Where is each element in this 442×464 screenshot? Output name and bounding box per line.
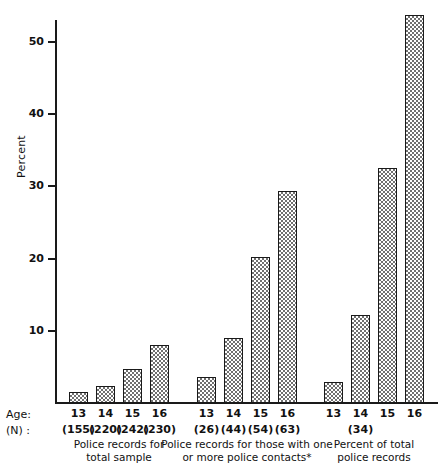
bar-group3-age-16 — [405, 15, 424, 403]
y-tick-label-20: 20 — [18, 253, 44, 264]
n-row-header: (N) : — [6, 424, 30, 437]
group-caption-3: Percent of total police records — [284, 438, 442, 464]
y-tick-30 — [48, 185, 56, 187]
bar-group3-age-13 — [324, 382, 343, 403]
age-label-group1-16: 16 — [143, 407, 177, 420]
y-tick-label-10: 10 — [18, 325, 44, 336]
bar-group2-age-15 — [251, 257, 270, 403]
age-row-header: Age: — [6, 408, 31, 421]
bar-group3-age-15 — [378, 168, 397, 403]
bar-group1-age-16 — [150, 345, 169, 403]
n-label-group1-16: (230) — [141, 423, 179, 436]
n-label-group3-14: (34) — [342, 423, 380, 436]
y-axis-line — [55, 20, 57, 404]
bar-group1-age-14 — [96, 386, 115, 403]
y-tick-50 — [48, 41, 56, 43]
bar-group3-age-14 — [351, 315, 370, 403]
bar-group1-age-15 — [123, 369, 142, 403]
bar-group1-age-13 — [69, 392, 88, 403]
y-tick-20 — [48, 258, 56, 260]
age-label-group3-16: 16 — [398, 407, 432, 420]
y-tick-label-40: 40 — [18, 108, 44, 119]
age-label-group2-16: 16 — [271, 407, 305, 420]
bar-group2-age-13 — [197, 377, 216, 403]
y-tick-10 — [48, 330, 56, 332]
y-tick-label-30: 30 — [18, 180, 44, 191]
bar-group2-age-14 — [224, 338, 243, 403]
y-tick-label-50: 50 — [18, 36, 44, 47]
n-label-group2-16: (63) — [269, 423, 307, 436]
y-tick-40 — [48, 113, 56, 115]
bar-group2-age-16 — [278, 191, 297, 403]
